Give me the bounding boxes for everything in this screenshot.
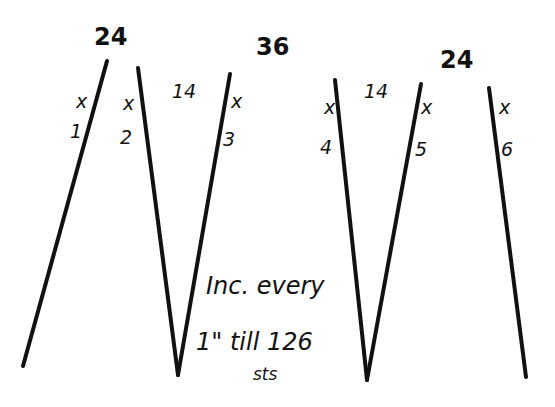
instruction-line-1: Inc. every (206, 272, 325, 300)
marker-number-4: 4 (320, 136, 332, 158)
edge-line-6 (489, 88, 526, 377)
marker-x-1: x (75, 90, 88, 112)
marker-x-2: x (122, 92, 135, 114)
gap-label-right: 14 (364, 80, 388, 102)
gap-label-left: 14 (172, 80, 196, 102)
instruction-line-3: sts (253, 364, 278, 384)
marker-x-3: x (230, 90, 243, 112)
width-label-right: 24 (440, 46, 473, 74)
edge-line-4 (335, 80, 367, 380)
knitting-diagram: 24 36 24 14 14 x x x x x x 1 2 3 4 5 6 I… (0, 0, 555, 407)
marker-x-4: x (323, 96, 336, 118)
instruction-line-2: 1" till 126 (196, 328, 313, 356)
marker-number-3: 3 (223, 128, 235, 150)
edge-line-1 (23, 61, 107, 366)
marker-number-2: 2 (120, 126, 132, 148)
marker-number-1: 1 (70, 120, 82, 142)
marker-x-5: x (420, 96, 433, 118)
edge-line-2 (138, 68, 178, 375)
marker-number-5: 5 (415, 138, 427, 160)
width-label-center: 36 (256, 33, 289, 61)
marker-x-6: x (498, 96, 511, 118)
edge-line-5 (367, 84, 421, 380)
marker-number-6: 6 (501, 138, 513, 160)
width-label-left: 24 (94, 23, 127, 51)
